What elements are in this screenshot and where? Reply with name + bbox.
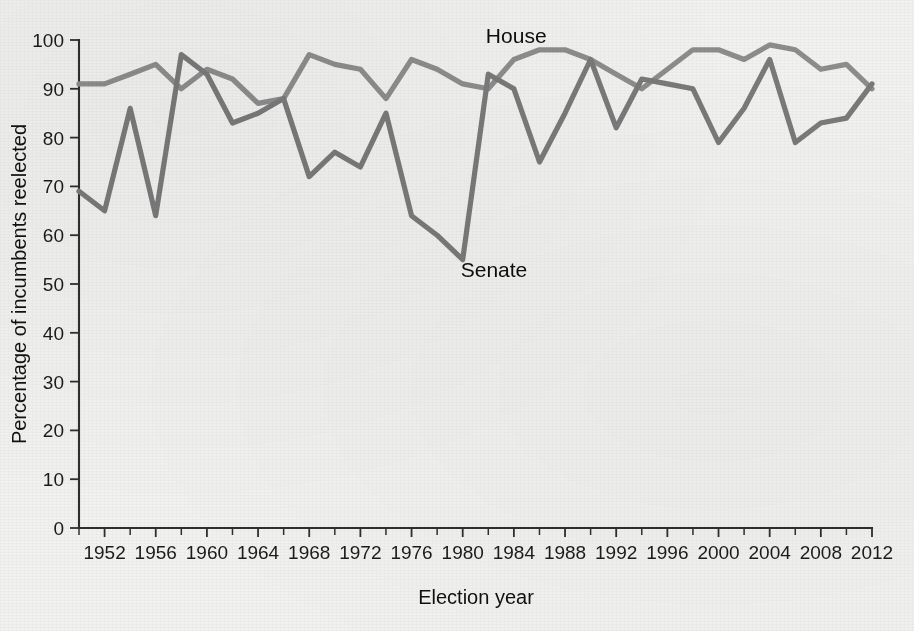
- x-axis-title: Election year: [418, 586, 534, 608]
- y-axis-title: Percentage of incumbents reelected: [8, 124, 30, 444]
- x-tick-label: 1988: [544, 542, 586, 563]
- y-axis-tick-labels: 0102030405060708090100: [32, 30, 64, 539]
- y-tick-label: 40: [43, 323, 64, 344]
- x-tick-label: 1960: [186, 542, 228, 563]
- incumbent-reelection-line-chart: 0102030405060708090100 19521956196019641…: [0, 0, 914, 631]
- x-tick-label: 1984: [493, 542, 536, 563]
- y-tick-label: 30: [43, 372, 64, 393]
- x-tick-label: 1968: [288, 542, 330, 563]
- x-tick-label: 1980: [442, 542, 484, 563]
- y-tick-label: 90: [43, 79, 64, 100]
- y-tick-label: 70: [43, 176, 64, 197]
- x-tick-label: 2012: [851, 542, 893, 563]
- y-axis-ticks: [70, 40, 79, 528]
- x-tick-label: 2008: [800, 542, 842, 563]
- x-tick-label: 1964: [237, 542, 280, 563]
- y-tick-label: 20: [43, 420, 64, 441]
- series-label-senate: Senate: [461, 258, 528, 281]
- y-tick-label: 100: [32, 30, 64, 51]
- x-tick-label: 1976: [390, 542, 432, 563]
- x-tick-label: 1952: [83, 542, 125, 563]
- chart-page: 0102030405060708090100 19521956196019641…: [0, 0, 914, 631]
- x-axis-tick-labels: 1952195619601964196819721976198019841988…: [83, 542, 893, 563]
- x-tick-label: 1972: [339, 542, 381, 563]
- y-tick-label: 10: [43, 469, 64, 490]
- x-tick-label: 1992: [595, 542, 637, 563]
- y-tick-label: 0: [53, 518, 64, 539]
- series-label-house: House: [486, 24, 547, 47]
- y-tick-label: 80: [43, 128, 64, 149]
- y-tick-label: 50: [43, 274, 64, 295]
- y-tick-label: 60: [43, 225, 64, 246]
- x-tick-label: 1996: [646, 542, 688, 563]
- x-tick-label: 2000: [697, 542, 739, 563]
- x-tick-label: 1956: [135, 542, 177, 563]
- x-tick-label: 2004: [749, 542, 792, 563]
